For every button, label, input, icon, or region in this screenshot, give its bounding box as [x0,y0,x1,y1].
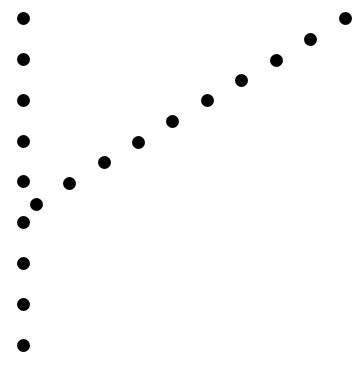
vertical-column-dot [17,53,30,66]
vertical-column-dot [17,12,30,25]
diagonal-line-dot [235,74,248,87]
diagonal-line-dot [339,12,352,25]
diagonal-line-dot [201,94,214,107]
diagonal-line-dot [63,177,76,190]
diagonal-line-dot [30,198,43,211]
vertical-column-dot [17,94,30,107]
vertical-column-dot [17,339,30,352]
vertical-column-dot [17,135,30,148]
vertical-column-dot [17,257,30,270]
vertical-column-dot [17,175,30,188]
diagonal-line-dot [304,33,317,46]
dot-figure [0,0,358,365]
diagonal-line-dot [132,136,145,149]
diagonal-line-dot [98,156,111,169]
diagonal-line-dot [270,54,283,67]
diagonal-line-dot [166,115,179,128]
vertical-column-dot [17,216,30,229]
vertical-column-dot [17,298,30,311]
